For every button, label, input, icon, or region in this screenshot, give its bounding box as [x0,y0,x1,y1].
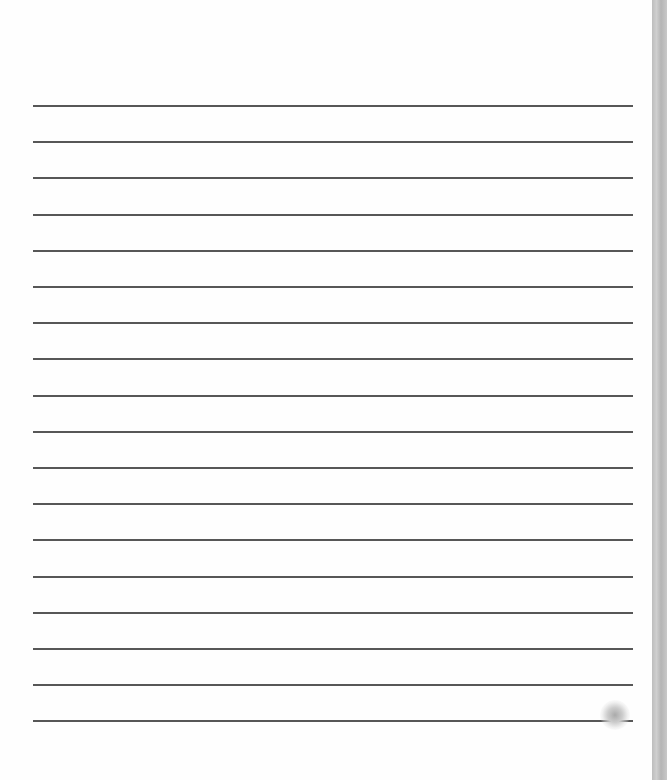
ruled-line [33,720,633,722]
ruled-line [33,612,633,614]
paper-stain [600,700,630,730]
ruled-line [33,576,633,578]
ruled-line [33,395,633,397]
ruled-line [33,431,633,433]
ruled-line [33,503,633,505]
ruled-line [33,684,633,686]
ruled-line [33,467,633,469]
ruled-line [33,105,633,107]
ruled-line [33,177,633,179]
ruled-line [33,286,633,288]
ruled-line [33,358,633,360]
ruled-line [33,250,633,252]
ruled-line [33,141,633,143]
ruled-line [33,322,633,324]
paper-edge-shadow [652,0,667,780]
lined-paper-page [0,0,652,780]
ruled-line [33,214,633,216]
ruled-line [33,539,633,541]
ruled-line [33,648,633,650]
